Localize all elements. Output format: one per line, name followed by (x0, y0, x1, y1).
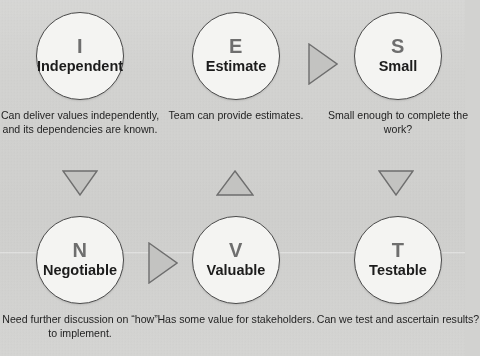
node-negotiable-caption: Need further discussion on “how” to impl… (0, 313, 162, 340)
node-testable-caption: Can we test and ascertain results? (316, 313, 480, 327)
node-valuable-caption: Has some value for stakeholders. (154, 313, 318, 327)
node-valuable-word: Valuable (207, 263, 266, 278)
node-valuable-letter: V (229, 240, 243, 260)
node-small-circle: S Small (354, 12, 442, 100)
node-negotiable-circle: N Negotiable (36, 216, 124, 304)
node-valuable: V Valuable Has some value for stakeholde… (154, 216, 318, 327)
node-estimate-caption: Team can provide estimates. (154, 109, 318, 123)
node-independent: I Independent Can deliver values indepen… (0, 12, 162, 136)
node-valuable-circle: V Valuable (192, 216, 280, 304)
node-testable-word: Testable (369, 263, 427, 278)
node-negotiable-letter: N (73, 240, 88, 260)
node-small-word: Small (379, 59, 418, 74)
node-small: S Small Small enough to complete the wor… (316, 12, 480, 136)
node-estimate-circle: E Estimate (192, 12, 280, 100)
node-estimate-letter: E (229, 36, 243, 56)
node-independent-letter: I (77, 36, 83, 56)
node-small-letter: S (391, 36, 405, 56)
node-testable: T Testable Can we test and ascertain res… (316, 216, 480, 327)
node-estimate: E Estimate Team can provide estimates. (154, 12, 318, 123)
node-testable-circle: T Testable (354, 216, 442, 304)
node-testable-letter: T (392, 240, 405, 260)
arrow-down-icon-independent-to-negotiable (62, 170, 98, 196)
node-independent-word: Independent (37, 59, 123, 74)
node-negotiable: N Negotiable Need further discussion on … (0, 216, 162, 340)
arrow-right-icon-negotiable-to-valuable (148, 242, 178, 284)
node-independent-circle: I Independent (36, 12, 124, 100)
node-independent-caption: Can deliver values independently, and it… (0, 109, 162, 136)
node-negotiable-word: Negotiable (43, 263, 117, 278)
node-small-caption: Small enough to complete the work? (316, 109, 480, 136)
arrow-down-icon-small-to-testable (378, 170, 414, 196)
arrow-up-icon-valuable-to-estimate (216, 170, 254, 196)
arrow-right-icon-estimate-to-small (308, 43, 338, 85)
node-estimate-word: Estimate (206, 59, 266, 74)
